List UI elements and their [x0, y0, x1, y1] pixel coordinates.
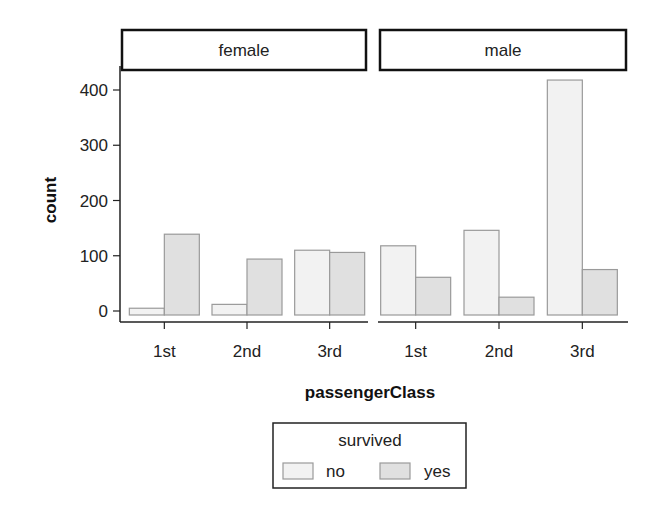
legend-label-yes: yes	[424, 462, 450, 481]
x-tick-label: 1st	[153, 342, 176, 361]
x-tick-label: 2nd	[233, 342, 261, 361]
facet-label: female	[218, 41, 269, 60]
legend-swatch-no	[283, 463, 313, 479]
x-tick-label: 2nd	[485, 342, 513, 361]
chart: 0100200300400countfemale1st2nd3rdmale1st…	[0, 0, 658, 514]
bar-female-2nd-yes	[247, 259, 282, 315]
bar-female-1st-yes	[164, 234, 199, 315]
bar-female-2nd-no	[212, 304, 247, 315]
x-axis-title: passengerClass	[305, 383, 435, 402]
x-tick-label: 3rd	[570, 342, 595, 361]
y-axis-title: count	[41, 177, 60, 224]
bar-male-3rd-no	[547, 80, 582, 315]
bar-male-1st-yes	[416, 277, 451, 315]
y-tick-label: 100	[80, 247, 108, 266]
bar-male-2nd-no	[464, 230, 499, 315]
bar-male-1st-no	[381, 246, 416, 315]
facet-label: male	[485, 41, 522, 60]
legend-title: survived	[338, 431, 401, 450]
x-tick-label: 3rd	[317, 342, 342, 361]
x-tick-label: 1st	[404, 342, 427, 361]
bar-male-3rd-yes	[582, 270, 617, 315]
y-tick-label: 300	[80, 136, 108, 155]
y-tick-label: 0	[99, 302, 108, 321]
bar-female-3rd-yes	[330, 252, 365, 315]
y-tick-label: 200	[80, 192, 108, 211]
bar-female-3rd-no	[295, 250, 330, 315]
bar-male-2nd-yes	[499, 297, 534, 315]
legend-label-no: no	[326, 462, 345, 481]
faceted-bar-chart: 0100200300400countfemale1st2nd3rdmale1st…	[0, 0, 658, 514]
y-tick-label: 400	[80, 81, 108, 100]
bar-female-1st-no	[129, 308, 164, 315]
legend-swatch-yes	[380, 463, 410, 479]
